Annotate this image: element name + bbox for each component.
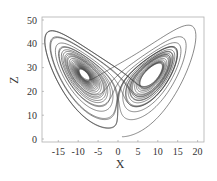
y-tick-label: 50: [27, 15, 37, 26]
trajectory-line: [45, 25, 196, 137]
y-tick-label: 0: [32, 134, 37, 145]
y-axis-label: Z: [7, 76, 21, 83]
x-tick-label: 5: [135, 146, 140, 157]
x-tick-label: 10: [153, 146, 163, 157]
y-tick-label: 40: [27, 38, 37, 49]
x-tick-label: -15: [52, 146, 65, 157]
y-tick-label: 30: [27, 62, 37, 73]
x-tick-label: 15: [173, 146, 183, 157]
lorenz-attractor-chart: 01020304050 -15-10-505101520 X Z: [0, 0, 217, 181]
x-tick-label: -10: [72, 146, 85, 157]
y-tick-label: 10: [27, 110, 37, 121]
x-tick-label: 0: [116, 146, 121, 157]
x-axis-label: X: [116, 157, 125, 171]
x-tick-label: -5: [94, 146, 102, 157]
x-axis: -15-10-505101520: [52, 140, 203, 157]
y-tick-label: 20: [27, 86, 37, 97]
y-axis: 01020304050: [27, 15, 44, 145]
x-tick-label: 20: [193, 146, 203, 157]
